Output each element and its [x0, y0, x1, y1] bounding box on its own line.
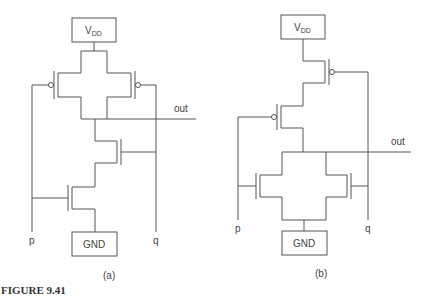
circuit-diagram: VDD out — [0, 0, 432, 299]
nmos-lower-a — [32, 185, 95, 232]
pmos-lower-b — [238, 104, 303, 152]
output-label-b: out — [391, 136, 405, 147]
pmos-left-a — [32, 71, 81, 119]
input-p-label-a: p — [29, 235, 35, 246]
pmos-right-a — [107, 71, 156, 119]
circuit-a: VDD out — [29, 18, 196, 281]
pmos-upper-b — [303, 59, 368, 106]
output-label-a: out — [174, 103, 188, 114]
input-q-label-b: q — [365, 223, 371, 234]
input-p-label-b: p — [235, 223, 241, 234]
nmos-right-b — [326, 173, 368, 220]
nmos-upper-a — [95, 119, 156, 187]
subfigure-label-a: (a) — [103, 270, 115, 281]
figure-caption: FIGURE 9.41 — [1, 284, 66, 296]
subfigure-label-b: (b) — [315, 268, 327, 279]
circuit-b: VDD out — [235, 15, 411, 279]
input-q-label-a: q — [153, 235, 159, 246]
nmos-left-b — [238, 173, 282, 220]
gnd-label-a: GND — [83, 239, 105, 250]
gnd-label-b: GND — [293, 238, 315, 249]
